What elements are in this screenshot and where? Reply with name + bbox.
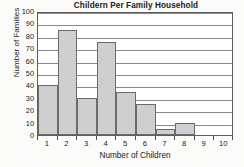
y-tick-label: 90 bbox=[26, 21, 34, 28]
y-tick-label: 20 bbox=[26, 107, 34, 114]
x-tick-label: 1 bbox=[45, 139, 49, 149]
y-tick-label: 50 bbox=[26, 70, 34, 77]
bar bbox=[116, 92, 136, 135]
y-tick-label: 0 bbox=[30, 132, 34, 139]
y-tick-label: 10 bbox=[26, 120, 34, 127]
x-tick-label: 6 bbox=[143, 139, 147, 149]
bar bbox=[136, 104, 156, 135]
y-tick-label: 70 bbox=[26, 45, 34, 52]
x-axis-tick-labels: 12345678910 bbox=[37, 139, 233, 151]
y-tick-label: 40 bbox=[26, 83, 34, 90]
x-tick-label: 9 bbox=[201, 139, 205, 149]
y-tick-label: 30 bbox=[26, 95, 34, 102]
y-axis-tick-labels: 0102030405060708090100 bbox=[14, 12, 34, 136]
x-tick-label: 8 bbox=[182, 139, 186, 149]
y-tick-label: 60 bbox=[26, 58, 34, 65]
y-tick-label: 100 bbox=[22, 8, 34, 15]
x-tick-label: 10 bbox=[219, 139, 227, 149]
bar bbox=[77, 98, 97, 135]
x-tick-label: 7 bbox=[162, 139, 166, 149]
bar bbox=[175, 123, 195, 135]
x-tick-label: 2 bbox=[64, 139, 68, 149]
chart-title: Childern Per Family Household bbox=[36, 1, 236, 10]
x-tick-label: 5 bbox=[123, 139, 127, 149]
chart-figure: Childern Per Family Household Number of … bbox=[0, 0, 244, 167]
bar-series bbox=[38, 13, 232, 135]
x-tick-label: 3 bbox=[84, 139, 88, 149]
bar bbox=[58, 30, 78, 135]
plot-area bbox=[37, 12, 233, 136]
bar bbox=[97, 42, 117, 135]
x-axis-label: Number of Children bbox=[37, 151, 233, 160]
y-tick-label: 80 bbox=[26, 33, 34, 40]
bar bbox=[38, 85, 58, 135]
x-tick-label: 4 bbox=[103, 139, 107, 149]
bar bbox=[156, 129, 176, 135]
